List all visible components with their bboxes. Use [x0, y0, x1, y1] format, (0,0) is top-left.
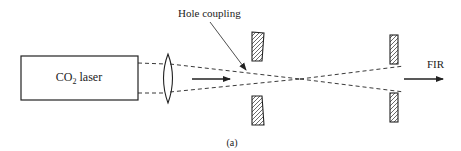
hole-coupling-mirror — [252, 32, 264, 125]
fir-label: FIR — [427, 58, 445, 70]
laser-diagram: CO2 laser Hole coupling FIR (a) — [0, 0, 461, 151]
output-mirror-upper — [390, 35, 398, 64]
beam-lower-converging — [170, 79, 300, 92]
mirror-lower-half — [252, 96, 264, 125]
mirror-upper-half — [252, 32, 264, 61]
output-mirror-lower — [390, 93, 398, 122]
hole-coupling-label: Hole coupling — [178, 7, 241, 19]
co2-laser-box: CO2 laser — [21, 56, 138, 100]
beam-upper-diverging — [300, 66, 404, 79]
beam-lower-diverging — [300, 79, 404, 92]
hole-coupling-pointer — [210, 22, 246, 70]
output-mirror — [390, 35, 398, 122]
focusing-lens — [164, 54, 173, 103]
beam-upper-converging — [170, 64, 300, 79]
beam-upper-parallel — [138, 63, 166, 64]
figure-caption: (a) — [226, 137, 237, 149]
laser-label: CO2 laser — [56, 70, 102, 86]
